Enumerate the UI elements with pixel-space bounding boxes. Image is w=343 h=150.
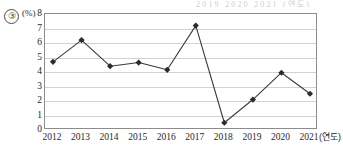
y-tick-label: 6 xyxy=(37,37,42,47)
option-number-badge: ③ xyxy=(4,9,19,24)
y-tick-label: 1 xyxy=(37,110,42,120)
plot-area xyxy=(44,13,317,129)
gridline xyxy=(45,116,316,117)
line-chart-figure: ③ (%) 012345678 201220132014201520162017… xyxy=(0,0,343,150)
y-tick-label: 7 xyxy=(37,23,42,33)
gridline xyxy=(45,29,316,30)
gridlines xyxy=(45,14,316,128)
x-tick-label: 2020 xyxy=(271,131,290,143)
x-tick-label: 2014 xyxy=(100,131,119,143)
x-tick-label: 2019 xyxy=(242,131,261,143)
x-axis-title: (연도) xyxy=(319,131,341,143)
gridline xyxy=(45,72,316,73)
y-axis-tick-labels: 012345678 xyxy=(28,13,42,129)
y-tick-label: 4 xyxy=(37,66,42,76)
x-tick-label: 2021 xyxy=(300,131,319,143)
y-tick-label: 3 xyxy=(37,81,42,91)
gridline xyxy=(45,58,316,59)
gridline xyxy=(45,87,316,88)
x-tick-label: 2013 xyxy=(71,131,90,143)
y-tick-label: 0 xyxy=(37,124,42,134)
y-tick-label: 8 xyxy=(37,8,42,18)
y-tick-label: 2 xyxy=(37,95,42,105)
x-tick-label: 2016 xyxy=(157,131,176,143)
x-tick-label: 2017 xyxy=(185,131,204,143)
gridline xyxy=(45,43,316,44)
x-tick-label: 2015 xyxy=(128,131,147,143)
gridline xyxy=(45,101,316,102)
x-tick-label: 2012 xyxy=(43,131,62,143)
y-tick-label: 5 xyxy=(37,52,42,62)
x-tick-label: 2018 xyxy=(214,131,233,143)
x-axis-tick-labels: 2012201320142015201620172018201920202021 xyxy=(44,131,317,147)
